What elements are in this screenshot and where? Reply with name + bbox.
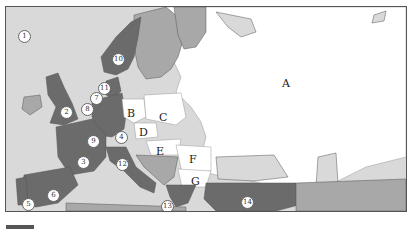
- label-D: D: [139, 126, 148, 139]
- marker-8: 8: [81, 103, 94, 116]
- marker-3: 3: [77, 156, 90, 169]
- label-C: C: [159, 111, 167, 124]
- region-middle-east: [296, 179, 406, 211]
- region-ireland: [22, 95, 42, 115]
- label-A: A: [282, 77, 290, 90]
- marker-1: 1: [18, 30, 31, 43]
- label-F: F: [189, 153, 197, 166]
- marker-4: 4: [115, 131, 128, 144]
- marker-14: 14: [241, 196, 254, 209]
- region-14: [204, 183, 306, 211]
- label-E: E: [156, 145, 164, 158]
- map-frame: 1 2 3 4 5 6 7 8 9 10 11 12 13 14 A B C D…: [5, 6, 407, 212]
- cropped-caption: [175, 0, 235, 3]
- marker-11: 11: [98, 82, 111, 95]
- marker-13: 13: [161, 200, 174, 212]
- marker-10: 10: [112, 53, 125, 66]
- marker-12: 12: [116, 158, 129, 171]
- marker-5: 5: [22, 198, 35, 211]
- region-10: [101, 17, 141, 75]
- label-G: G: [191, 175, 200, 188]
- marker-6: 6: [47, 189, 60, 202]
- legend-swatch: [6, 225, 34, 229]
- marker-2: 2: [60, 106, 73, 119]
- label-B: B: [127, 107, 135, 120]
- marker-9: 9: [87, 135, 100, 148]
